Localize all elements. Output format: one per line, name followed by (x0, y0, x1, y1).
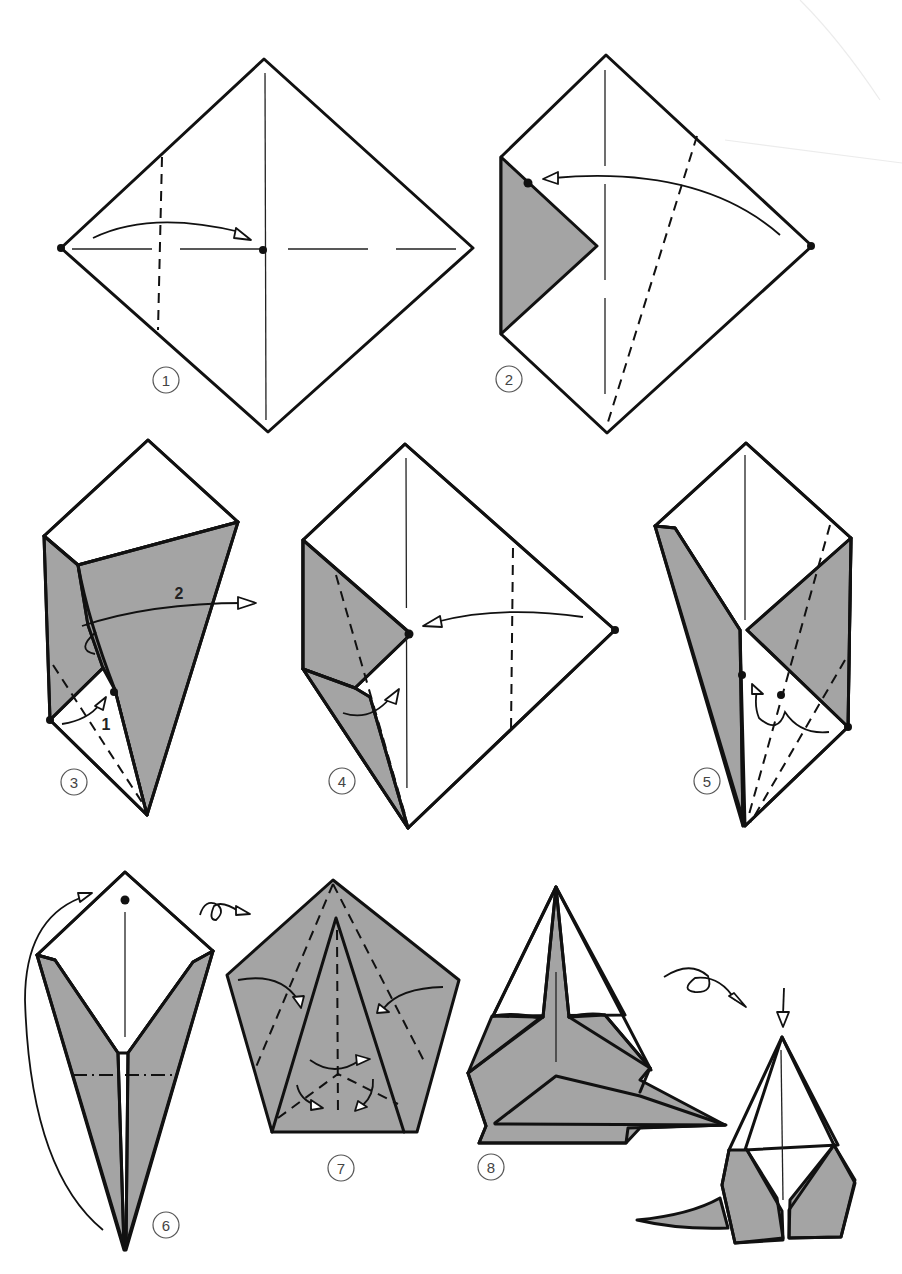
turn-over-icon (664, 968, 746, 1007)
target-dot (777, 691, 785, 699)
pentagon (227, 880, 459, 1132)
svg-text:4: 4 (338, 773, 346, 790)
scan-artifact (725, 140, 902, 163)
arrow-head-icon (238, 597, 256, 609)
reference-dot (57, 244, 65, 252)
reference-dot (121, 896, 130, 905)
reference-dot (46, 716, 54, 724)
svg-text:8: 8 (487, 1159, 495, 1176)
target-dot (405, 630, 414, 639)
push-arrow-icon (777, 988, 789, 1027)
step-3: 2 1 3 (44, 440, 256, 815)
step-number-2: 2 (496, 366, 522, 392)
step-number-4: 4 (329, 768, 355, 794)
reference-dot (844, 723, 852, 731)
step-2: 2 (496, 55, 815, 433)
tail-base-edge (495, 1124, 726, 1125)
reference-dot (110, 688, 118, 696)
step-8: 8 (468, 887, 726, 1180)
step-1: 1 (57, 59, 473, 432)
reference-dot (738, 671, 746, 679)
svg-text:5: 5 (703, 773, 711, 790)
step-number-3: 3 (61, 769, 87, 795)
step-number-1: 1 (153, 367, 179, 393)
reference-dot (807, 242, 815, 250)
reference-dot (611, 626, 619, 634)
scan-artifact (800, 0, 880, 100)
sub-step-label: 2 (175, 585, 184, 602)
turn-over-icon (200, 903, 250, 920)
svg-text:1: 1 (162, 372, 170, 389)
step-number-6: 6 (153, 1212, 179, 1238)
sub-step-label: 1 (102, 716, 111, 733)
arrow-head-icon (78, 893, 92, 902)
step-number-7: 7 (328, 1155, 354, 1181)
center-dot (259, 246, 267, 254)
step-5: 5 (655, 443, 852, 826)
svg-text:6: 6 (162, 1217, 170, 1234)
step-number-5: 5 (694, 768, 720, 794)
paper-diamond (61, 59, 473, 432)
origami-diagram: 1 2 2 1 3 (0, 0, 902, 1274)
step-4: 4 (303, 444, 619, 828)
step-6: 6 (25, 872, 250, 1250)
svg-text:2: 2 (505, 371, 513, 388)
svg-text:3: 3 (70, 774, 78, 791)
target-dot (524, 179, 533, 188)
step-number-8: 8 (478, 1154, 504, 1180)
step-7: 7 (227, 880, 459, 1181)
tail (637, 1198, 728, 1228)
svg-text:7: 7 (337, 1160, 345, 1177)
